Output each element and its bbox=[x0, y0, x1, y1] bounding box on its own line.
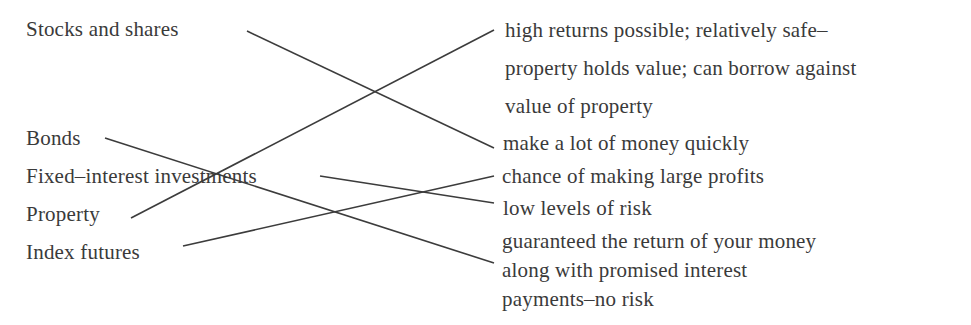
left-item-index-futures: Index futures bbox=[26, 236, 140, 268]
right-item-guaranteed-line1: guaranteed the return of your money bbox=[502, 225, 816, 257]
left-item-bonds: Bonds bbox=[26, 122, 81, 154]
right-item-high-returns-line3: value of property bbox=[505, 90, 653, 122]
right-item-high-returns-line2: property holds value; can borrow against bbox=[505, 52, 857, 84]
right-item-high-returns-line1: high returns possible; relatively safe– bbox=[505, 14, 828, 46]
left-item-property: Property bbox=[26, 198, 100, 230]
left-item-stocks-and-shares: Stocks and shares bbox=[26, 13, 179, 45]
right-item-money-quickly: make a lot of money quickly bbox=[503, 127, 749, 159]
right-item-guaranteed-line2: along with promised interest bbox=[502, 254, 747, 286]
left-item-fixed-interest: Fixed–interest investments bbox=[26, 160, 257, 192]
right-item-guaranteed-line3: payments–no risk bbox=[502, 283, 654, 315]
connector-fixed-interest-to-low-risk bbox=[320, 176, 494, 203]
right-item-low-risk: low levels of risk bbox=[503, 192, 652, 224]
right-item-large-profits: chance of making large profits bbox=[502, 160, 764, 192]
matching-diagram: Stocks and shares Bonds Fixed–interest i… bbox=[0, 0, 971, 325]
